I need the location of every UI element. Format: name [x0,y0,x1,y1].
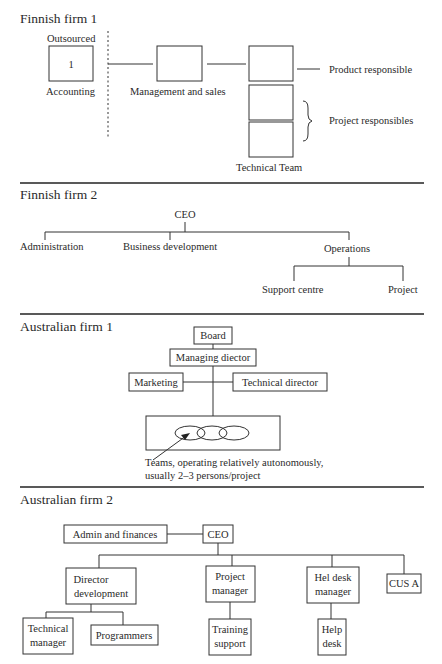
accounting-box-number: 1 [68,59,73,70]
teams-container-box [146,416,280,450]
admin-finances-node: Admin and finances [73,529,158,540]
programmers-node: Programmers [96,630,153,641]
technical-director-node: Technical director [242,377,318,388]
section-australian-firm-2: Australian firm 2 Admin and finances CEO… [20,492,421,655]
teams-note-line2: usually 2–3 persons/project [145,470,261,481]
brace-icon [303,101,312,141]
marketing-node: Marketing [134,377,178,388]
business-development-node: Business development [123,241,217,252]
help-desk-manager-line1: Hel desk [314,572,352,583]
managing-director-node: Managing diector [176,352,251,363]
help-desk-line2: desk [322,638,342,649]
teams-note-line1: Teams, operating relatively autonomously… [145,457,324,468]
project-responsible-box [249,122,293,157]
section-finnish-firm-2: Finnish firm 2 CEO Administration Busine… [20,187,418,295]
help-desk-line1: Help [322,624,342,635]
product-responsible-box [249,46,293,81]
project-responsibles-label: Project responsibles [329,115,413,126]
outsourced-label: Outsourced [47,33,96,44]
director-development-line2: development [74,588,128,599]
project-responsible-box [249,85,293,120]
management-box [157,46,202,81]
section-title: Finnish firm 1 [20,11,97,26]
management-label: Management and sales [130,86,226,97]
project-manager-line2: manager [212,585,249,596]
help-desk-manager-line2: manager [315,586,352,597]
technical-manager-line2: manager [30,637,67,648]
training-support-line1: Training [212,624,249,635]
ceo-node: CEO [208,529,229,540]
section-title: Finnish firm 2 [20,187,97,202]
accounting-label: Accounting [46,86,96,97]
administration-node: Administration [20,241,84,252]
org-charts-figure: Finnish firm 1 Outsourced 1 Accounting M… [0,0,442,664]
section-finnish-firm-1: Finnish firm 1 Outsourced 1 Accounting M… [20,11,413,173]
section-title: Australian firm 2 [20,492,113,507]
director-development-line1: Director [74,574,109,585]
product-responsible-label: Product responsible [329,64,412,75]
technical-manager-line1: Technical [28,623,69,634]
support-centre-node: Support centre [262,284,324,295]
operations-node: Operations [324,243,370,254]
project-node: Project [388,284,418,295]
technical-team-label: Technical Team [236,162,302,173]
cus-a-node: CUS A [389,578,419,589]
board-node: Board [200,330,226,341]
ceo-node: CEO [175,209,196,220]
section-title: Australian firm 1 [20,319,113,334]
project-manager-line1: Project [215,571,245,582]
training-support-line2: support [214,638,246,649]
section-australian-firm-1: Australian firm 1 Board Managing diector… [20,319,327,481]
